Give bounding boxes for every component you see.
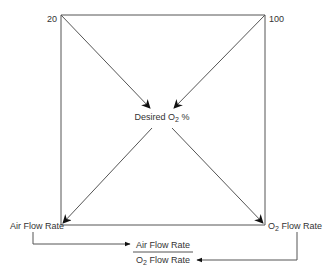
denominator-prefix: O <box>136 255 143 265</box>
denominator-suffix: Flow Rate <box>147 255 190 265</box>
center-label-prefix: Desired O <box>135 112 176 122</box>
diagram-canvas: 20 100 Desired O2 % Air Flow Rate O2 Flo… <box>0 0 329 279</box>
label-top-left: 20 <box>47 14 57 24</box>
arrow-air-to-numerator <box>33 232 130 244</box>
label-top-right: 100 <box>269 14 284 24</box>
arrow-topleft-to-center <box>61 15 150 108</box>
arrow-topright-to-center <box>174 15 265 108</box>
label-bottom-right: O2 Flow Rate <box>268 221 322 232</box>
arrow-center-to-bottomleft <box>63 128 152 223</box>
arrow-o2-to-denominator <box>197 232 297 260</box>
arrow-center-to-bottomright <box>172 128 263 223</box>
center-label-suffix: % <box>179 112 190 122</box>
bottom-right-suffix: Flow Rate <box>279 221 322 231</box>
fraction-numerator: Air Flow Rate <box>136 240 190 250</box>
label-center: Desired O2 % <box>135 112 190 123</box>
bottom-right-prefix: O <box>268 221 275 231</box>
label-bottom-left: Air Flow Rate <box>10 221 64 231</box>
fraction-denominator: O2 Flow Rate <box>136 255 190 266</box>
